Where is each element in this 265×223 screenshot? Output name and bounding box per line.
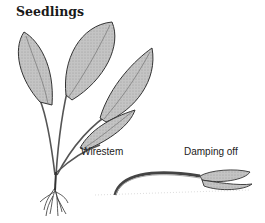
damping-off-label: Damping off — [184, 146, 238, 157]
wirestem-seedling — [18, 22, 153, 216]
damping-off-seedling — [95, 170, 252, 195]
seedling-illustration — [0, 0, 265, 223]
wirestem-label: Wirestem — [81, 146, 123, 157]
